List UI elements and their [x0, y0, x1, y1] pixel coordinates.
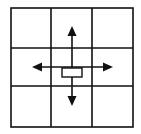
center-rectangle — [62, 68, 82, 77]
arrow-left-icon — [32, 63, 42, 72]
arrow-right-icon — [103, 63, 113, 72]
arrow-up-icon — [68, 26, 77, 36]
arrow-down-icon — [68, 96, 77, 106]
grid-arrows-diagram — [0, 0, 141, 134]
